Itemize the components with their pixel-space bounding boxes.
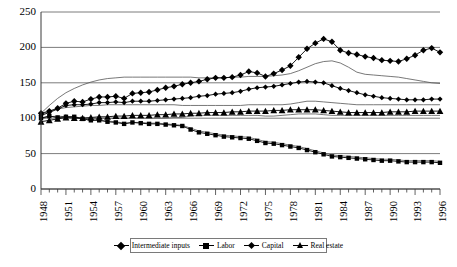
data-point-marker [313, 150, 317, 154]
x-axis-tick-label: 1969 [213, 201, 224, 222]
data-point-marker [171, 83, 177, 89]
data-point-marker [221, 75, 227, 81]
data-point-marker [404, 56, 410, 62]
data-point-marker [330, 154, 334, 158]
data-point-marker [138, 90, 144, 96]
data-point-marker [247, 137, 251, 141]
data-point-marker [405, 160, 409, 164]
data-point-marker [171, 96, 176, 101]
data-point-marker [146, 99, 151, 104]
data-point-marker [97, 100, 102, 105]
data-point-marker [346, 156, 350, 160]
data-point-marker [345, 50, 351, 56]
data-point-marker [139, 121, 143, 125]
data-point-marker [362, 53, 368, 59]
data-point-marker [188, 127, 192, 131]
data-point-marker [205, 132, 209, 136]
x-axis-tick-label: 1978 [288, 201, 299, 222]
data-point-marker [163, 97, 168, 102]
x-axis-tick-label: 1957 [113, 201, 124, 222]
data-point-marker [404, 97, 409, 102]
data-point-marker [413, 160, 417, 164]
data-point-marker [396, 96, 401, 101]
data-point-marker [371, 158, 375, 162]
data-point-marker [370, 55, 376, 61]
data-point-marker [238, 136, 242, 140]
x-axis-tick-label: 1963 [163, 201, 174, 222]
chart-container: 050100150200250 194819511954195719601963… [0, 0, 457, 267]
data-point-marker [180, 124, 184, 128]
smalldiamond-marker-icon [244, 241, 259, 250]
data-point-marker [421, 160, 425, 164]
x-axis-tick-label: 1987 [363, 201, 374, 222]
data-point-marker [305, 148, 309, 152]
data-point-marker [354, 51, 360, 57]
data-point-marker [155, 98, 160, 103]
x-axis-tick-label: 1990 [388, 201, 399, 222]
data-point-marker [380, 158, 384, 162]
data-point-marker [428, 45, 434, 51]
data-point-marker [338, 155, 342, 159]
data-point-marker [329, 83, 334, 88]
data-point-marker [263, 84, 268, 89]
legend-item-intermediate-inputs[interactable]: Intermediate inputs [114, 241, 190, 250]
data-point-marker [213, 92, 218, 97]
data-point-marker [396, 159, 400, 163]
data-point-marker [338, 86, 343, 91]
x-axis-tick-label: 1996 [437, 201, 448, 222]
data-point-marker [130, 99, 135, 104]
legend-label: Real estate [311, 241, 344, 250]
data-point-marker [263, 141, 267, 145]
data-point-marker [437, 49, 443, 55]
data-point-marker [221, 91, 226, 96]
y-axis-tick-label: 200 [20, 40, 37, 52]
data-point-marker [321, 152, 325, 156]
legend-item-capital[interactable]: Capital [244, 241, 284, 250]
data-point-marker [114, 120, 118, 124]
data-point-marker [179, 81, 185, 87]
data-point-marker [130, 120, 134, 124]
data-point-marker [429, 160, 433, 164]
data-point-marker [96, 94, 102, 100]
diamond-marker-icon [114, 241, 129, 250]
data-point-marker [272, 141, 276, 145]
x-axis-tick-label: 1981 [313, 201, 324, 222]
x-axis-ticks [41, 189, 440, 195]
data-point-marker [162, 85, 168, 91]
data-point-marker [213, 133, 217, 137]
y-axis-tick-label: 50 [25, 147, 37, 159]
data-point-marker [288, 81, 293, 86]
data-point-marker [296, 146, 300, 150]
x-axis-tick-label: 1966 [188, 201, 199, 222]
data-point-marker [230, 90, 235, 95]
data-point-marker [205, 93, 210, 98]
data-point-marker [412, 97, 417, 102]
data-point-marker [188, 95, 193, 100]
square-marker-icon [199, 241, 214, 250]
x-axis-tick-label: 1948 [38, 201, 49, 222]
y-axis-tick-label: 0 [31, 182, 37, 194]
x-axis-tick-label: 1951 [63, 201, 74, 222]
data-point-marker [255, 85, 260, 90]
data-point-marker [387, 58, 393, 64]
data-point-marker [196, 94, 201, 99]
y-axis-tick-label: 100 [20, 111, 37, 123]
legend-item-real-estate[interactable]: Real estate [293, 241, 344, 250]
legend-label: Intermediate inputs [132, 241, 190, 250]
data-point-marker [379, 57, 385, 63]
data-point-marker [229, 74, 235, 80]
legend-item-labor[interactable]: Labor [199, 241, 235, 250]
data-point-marker [312, 40, 318, 46]
data-point-marker [104, 94, 110, 100]
data-point-marker [147, 122, 151, 126]
data-point-marker [105, 120, 109, 124]
data-point-marker [395, 58, 401, 64]
data-point-marker [296, 79, 301, 84]
data-point-marker [304, 79, 309, 84]
data-point-marker [420, 47, 426, 53]
legend-label: Labor [217, 241, 235, 250]
data-point-marker [355, 156, 359, 160]
data-point-marker [354, 90, 359, 95]
data-point-marker [363, 157, 367, 161]
data-point-marker [255, 139, 259, 143]
